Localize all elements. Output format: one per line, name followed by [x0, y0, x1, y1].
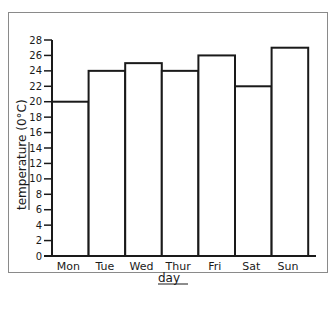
y-tick-label: 26	[29, 50, 42, 61]
bar-tue	[89, 71, 126, 256]
y-tick-label: 8	[36, 189, 42, 200]
x-category-label: Tue	[95, 260, 115, 273]
x-category-label: Mon	[57, 260, 80, 273]
y-tick-label: 2	[36, 235, 42, 246]
y-tick-label: 10	[29, 173, 42, 184]
x-category-label: Sat	[242, 260, 261, 273]
y-tick-label: 28	[29, 35, 42, 46]
x-category-label: Fri	[208, 260, 221, 273]
y-tick-label: 24	[29, 65, 42, 76]
bar-sun	[272, 48, 309, 256]
y-tick-label: 22	[29, 81, 42, 92]
y-tick-label: 18	[29, 112, 42, 123]
y-tick-label: 12	[29, 158, 42, 169]
y-tick-label: 16	[29, 127, 42, 138]
y-tick-label: 0	[36, 251, 42, 262]
bar-thur	[162, 71, 199, 256]
y-tick-label: 14	[29, 143, 42, 154]
bars-group	[52, 48, 308, 256]
bar-fri	[198, 55, 235, 256]
bar-sat	[235, 86, 272, 256]
bar-mon	[52, 102, 89, 256]
x-category-label: Wed	[130, 260, 154, 273]
y-axis-title: temperature (0°C)	[15, 99, 29, 210]
y-tick-label: 4	[36, 220, 42, 231]
bar-chart: 0246810121416182022242628 MonTueWedThurF…	[0, 0, 336, 311]
bar-wed	[125, 63, 162, 256]
y-tick-label: 6	[36, 204, 42, 215]
y-tick-label: 20	[29, 96, 42, 107]
x-category-label: Sun	[277, 260, 298, 273]
x-axis-title: day	[158, 271, 180, 285]
